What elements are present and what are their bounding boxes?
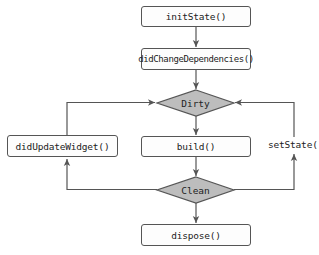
init-state-label: initState() <box>166 11 227 22</box>
connector-layer <box>0 0 319 255</box>
edge-clean-to-didupdatewidget <box>67 159 157 190</box>
did-change-dependencies-node: didChangeDependencies() <box>141 48 251 70</box>
did-update-widget-node: didUpdateWidget() <box>7 135 118 157</box>
dispose-node: dispose() <box>141 224 251 246</box>
clean-label: Clean <box>181 185 210 196</box>
lifecycle-flowchart: initState() didChangeDependencies() Dirt… <box>0 0 319 255</box>
set-state-edge-label: setState() <box>268 138 319 152</box>
did-change-dependencies-label: didChangeDependencies() <box>138 54 253 64</box>
did-update-widget-label: didUpdateWidget() <box>16 141 110 152</box>
dirty-label: Dirty <box>181 98 210 109</box>
dirty-node: Dirty <box>157 90 234 116</box>
build-node: build() <box>141 136 251 157</box>
clean-node: Clean <box>157 177 234 203</box>
edge-clean-to-setstate <box>234 154 294 190</box>
edge-didupdatewidget-to-dirty <box>67 103 155 136</box>
init-state-node: initState() <box>141 6 251 27</box>
dispose-label: dispose() <box>171 230 221 241</box>
edge-setstate-to-dirty <box>235 103 294 138</box>
build-label: build() <box>177 141 216 152</box>
